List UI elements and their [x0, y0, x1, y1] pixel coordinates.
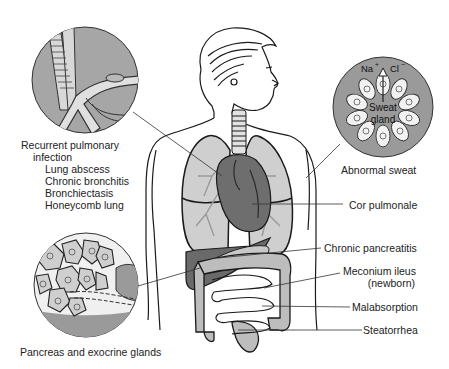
ion-cl-label: Cl: [390, 63, 399, 74]
inset-sweat-gland: Na + Cl − Sweat gland: [333, 57, 433, 157]
inset-airways: [32, 26, 140, 134]
label-bronchiectasis: Bronchiectasis: [21, 187, 129, 199]
inset-pancreas-glands: [34, 233, 140, 340]
label-lung-abscess: Lung abscess: [21, 163, 129, 175]
label-abnormal-sweat: Abnormal sweat: [341, 164, 416, 176]
label-chronic-pancreatitis: Chronic pancreatitis: [324, 242, 417, 254]
label-meconium-ileus: Meconium ileus (newborn): [343, 265, 415, 289]
trachea: [232, 110, 246, 154]
svg-text:−: −: [401, 61, 405, 68]
cystic-fibrosis-diagram: Na + Cl − Sweat gland: [0, 0, 449, 369]
sweat-gland-label-2: gland: [371, 114, 395, 125]
svg-text:+: +: [375, 61, 379, 68]
label-cor-pulmonale: Cor pulmonale: [349, 199, 417, 211]
label-steatorrhea: Steatorrhea: [363, 324, 418, 336]
label-malabsorption: Malabsorption: [352, 301, 418, 313]
label-chronic-bronchitis: Chronic bronchitis: [21, 175, 129, 187]
label-pancreas-exocrine-glands: Pancreas and exocrine glands: [20, 346, 161, 358]
ion-na-label: Na: [361, 63, 374, 74]
sweat-gland-label-1: Sweat: [369, 102, 397, 113]
label-recurrent-pulmonary-infection: Recurrent pulmonary infection Lung absce…: [21, 139, 129, 211]
colon: [194, 253, 291, 352]
label-honeycomb-lung: Honeycomb lung: [21, 199, 129, 211]
